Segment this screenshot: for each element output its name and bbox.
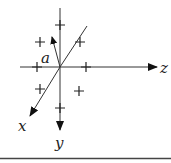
plus-icon [55, 20, 65, 30]
x-axis-upper [60, 26, 87, 67]
vector-a-label: a [41, 49, 50, 67]
vector-a-arrow [52, 37, 60, 67]
x-axis-label: x [18, 117, 27, 135]
plus-icon [81, 62, 91, 72]
plus-icon [35, 37, 45, 47]
x-axis [30, 67, 60, 116]
y-axis-label: y [54, 134, 64, 152]
plus-icon [74, 86, 84, 96]
z-axis-label: z [159, 59, 168, 77]
plus-icon [55, 103, 65, 113]
plus-icon [35, 84, 45, 94]
coordinate-diagram: a z y x [0, 0, 171, 163]
plus-icon [75, 37, 85, 47]
